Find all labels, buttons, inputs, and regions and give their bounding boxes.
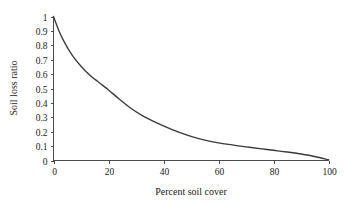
x-axis-title: Percent soil cover bbox=[155, 186, 227, 197]
x-tick-label: 80 bbox=[270, 167, 280, 177]
x-tick-label: 40 bbox=[160, 167, 170, 177]
x-tick-label: 20 bbox=[105, 167, 115, 177]
soil-loss-ratio-chart: 00.10.20.30.40.50.60.70.80.91 0204060801… bbox=[0, 0, 345, 205]
y-tick-label: 0 bbox=[43, 157, 48, 167]
y-tick-label: 0.8 bbox=[36, 41, 48, 51]
y-tick-labels: 00.10.20.30.40.50.60.70.80.91 bbox=[36, 13, 48, 167]
y-tick-label: 0.6 bbox=[36, 70, 48, 80]
y-tick-label: 0.4 bbox=[36, 99, 48, 109]
y-tick-label: 0.2 bbox=[36, 128, 48, 138]
y-axis-title: Soil loss ratio bbox=[8, 60, 19, 115]
x-tick-label: 100 bbox=[322, 167, 337, 177]
x-tick-label: 60 bbox=[215, 167, 225, 177]
y-tick-label: 0.3 bbox=[36, 113, 48, 123]
y-tick-label: 0.5 bbox=[36, 85, 48, 95]
chart-figure: 00.10.20.30.40.50.60.70.80.91 0204060801… bbox=[0, 0, 345, 205]
x-tick-label: 0 bbox=[52, 167, 57, 177]
y-tick-label: 0.7 bbox=[36, 56, 48, 66]
y-tick-label: 0.1 bbox=[36, 142, 48, 152]
y-tick-label: 1 bbox=[43, 13, 48, 23]
y-tick-label: 0.9 bbox=[36, 27, 48, 37]
